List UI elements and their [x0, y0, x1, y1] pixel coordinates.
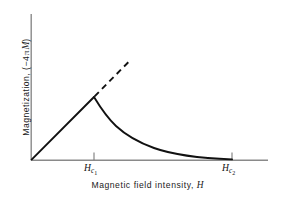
x-tick-label-hc1-subsub: 1	[94, 170, 97, 176]
x-tick-label-hc2-subsub: 2	[232, 170, 235, 176]
x-axis-title-symbol: H	[197, 180, 204, 190]
x-tick-label-hc2: Hc2	[222, 163, 235, 176]
curve-linear-rise	[32, 97, 94, 160]
x-tick-label-hc1-symbol: H	[84, 162, 91, 173]
y-axis-title-text: Magnetization, (	[21, 67, 31, 136]
curve-dashed-extrapolation	[95, 62, 129, 96]
plot-area	[0, 0, 295, 200]
figure-container: Hc1 Hc2 Magnetic field intensity, H Magn…	[0, 0, 295, 200]
x-tick-label-hc2-symbol: H	[222, 162, 229, 173]
curve-mixed-state-decay	[94, 97, 232, 159]
y-axis-title: Magnetization, (−4πM)	[21, 12, 31, 162]
x-axis-title: Magnetic field intensity, H	[0, 180, 295, 190]
x-tick-label-hc1: Hc1	[84, 163, 97, 176]
x-axis-title-text: Magnetic field intensity,	[91, 180, 196, 190]
y-axis-title-suffix: )	[21, 38, 31, 41]
y-axis-title-minus4: −4	[21, 56, 31, 67]
y-axis-title-symbol: M	[21, 42, 31, 50]
pi-icon: π	[21, 50, 31, 56]
